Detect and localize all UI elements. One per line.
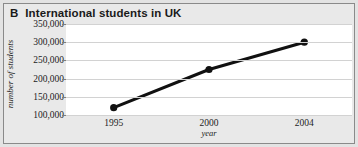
data-point	[205, 66, 212, 73]
gridline	[66, 24, 352, 25]
x-axis-tick-label: 2004	[295, 118, 314, 128]
y-axis-tick-label: 100,000	[33, 110, 64, 120]
plot-area	[66, 24, 352, 115]
x-axis-tick-label: 1995	[104, 118, 123, 128]
y-axis-tick-label: 200,000	[33, 74, 64, 84]
y-axis-tick-mark	[62, 79, 66, 80]
x-axis-tick-label: 2000	[200, 118, 219, 128]
y-axis-tick-label: 250,000	[33, 55, 64, 65]
chart-title-text: International students in UK	[25, 7, 181, 19]
y-axis-tick-label: 300,000	[33, 37, 64, 47]
y-axis-tick-mark	[62, 60, 66, 61]
chart-title: B International students in UK	[10, 7, 181, 19]
figure-panel-b: B International students in UK number of…	[0, 0, 358, 147]
y-axis-tick-labels: 350,000300,000250,000200,000150,000100,0…	[20, 24, 64, 115]
y-axis-tick-mark	[62, 42, 66, 43]
y-axis-tick-label: 350,000	[33, 19, 64, 29]
gridline	[66, 115, 352, 116]
gridline	[66, 60, 352, 61]
gridline	[66, 42, 352, 43]
y-axis-tick-mark	[62, 97, 66, 98]
gridline	[66, 79, 352, 80]
line-chart-svg	[66, 24, 352, 115]
gridline	[66, 97, 352, 98]
y-axis-tick-mark	[62, 24, 66, 25]
y-axis-tick-mark	[62, 115, 66, 116]
data-point	[110, 104, 117, 111]
x-axis-label: year	[201, 128, 216, 138]
y-axis-label: number of students	[5, 29, 15, 119]
panel-letter: B	[10, 7, 18, 19]
y-axis-tick-label: 150,000	[33, 92, 64, 102]
